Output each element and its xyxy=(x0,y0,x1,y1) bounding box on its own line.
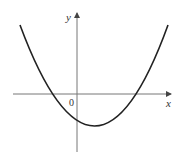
parabola-figure: y x 0 xyxy=(0,0,180,161)
parabola-curve xyxy=(20,25,168,126)
x-axis-label: x xyxy=(165,97,171,109)
y-axis-label: y xyxy=(65,11,71,23)
origin-label: 0 xyxy=(69,97,74,108)
